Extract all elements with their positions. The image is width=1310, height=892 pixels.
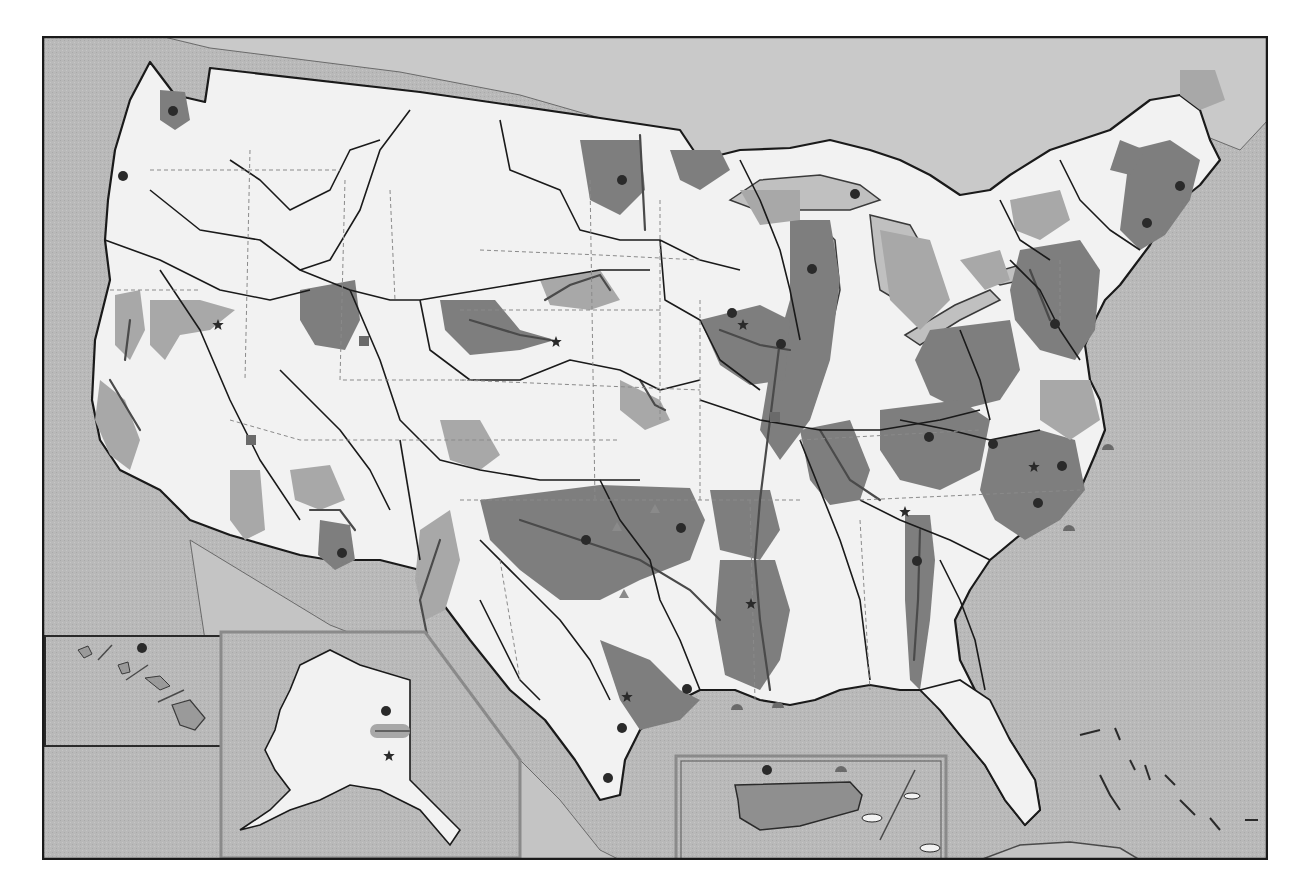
dot-marker-icon [682, 684, 692, 694]
dot-marker-icon [1175, 181, 1185, 191]
dot-marker-icon [850, 189, 860, 199]
dot-marker-icon [337, 548, 347, 558]
dot-marker-icon [137, 643, 147, 653]
dot-marker-icon [912, 556, 922, 566]
dot-marker-icon [617, 175, 627, 185]
dot-marker-icon [581, 535, 591, 545]
inset-puerto-rico [676, 756, 946, 860]
square-marker-icon [770, 412, 780, 422]
dot-marker-icon [381, 706, 391, 716]
dot-marker-icon [676, 523, 686, 533]
usa-map [42, 36, 1268, 860]
dot-marker-icon [776, 339, 786, 349]
dot-marker-icon [1033, 498, 1043, 508]
square-marker-icon [359, 336, 369, 346]
dot-marker-icon [924, 432, 934, 442]
dot-marker-icon [617, 723, 627, 733]
dot-marker-icon [1142, 218, 1152, 228]
dot-marker-icon [603, 773, 613, 783]
dot-marker-icon [727, 308, 737, 318]
dot-marker-icon [807, 264, 817, 274]
square-marker-icon [246, 435, 256, 445]
dot-marker-icon [1057, 461, 1067, 471]
dot-marker-icon [118, 171, 128, 181]
dot-marker-icon [762, 765, 772, 775]
inset-hawaii [45, 636, 221, 746]
dot-marker-icon [1050, 319, 1060, 329]
dot-marker-icon [988, 439, 998, 449]
dot-marker-icon [168, 106, 178, 116]
